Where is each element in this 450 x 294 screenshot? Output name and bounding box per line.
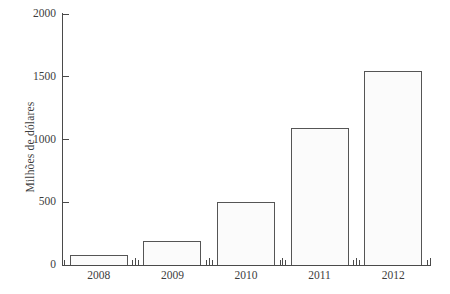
x-tick-mark-minor — [359, 260, 360, 266]
x-tick-mark-minor — [285, 260, 286, 266]
y-tick-label: 500 — [12, 197, 56, 209]
bar — [291, 128, 349, 265]
y-tick-label: 0 — [12, 259, 56, 271]
x-tick-mark — [282, 258, 283, 266]
x-tick-mark-minor — [427, 260, 428, 266]
x-tick-label: 2012 — [358, 270, 428, 282]
x-axis-line — [62, 265, 430, 266]
x-tick-mark — [209, 258, 210, 266]
y-tick-mark — [63, 14, 69, 15]
x-axis-end-tick — [430, 258, 431, 266]
bar — [364, 71, 422, 265]
y-tick-label: 2000 — [12, 8, 56, 20]
y-tick-mark — [63, 76, 69, 77]
x-tick-label: 2010 — [211, 270, 281, 282]
x-tick-mark-minor — [212, 260, 213, 266]
x-tick-mark — [356, 258, 357, 266]
y-tick-mark — [63, 202, 69, 203]
x-tick-mark-minor — [280, 260, 281, 266]
bar-chart-figure: Milhões de dólares 0500100015002000 2008… — [0, 0, 450, 294]
x-tick-label: 2009 — [137, 270, 207, 282]
x-tick-mark-minor — [353, 260, 354, 266]
x-tick-mark-minor — [138, 260, 139, 266]
y-tick-label: 1500 — [12, 71, 56, 83]
y-axis-title: Milhões de dólares — [20, 0, 40, 294]
y-tick-mark — [63, 139, 69, 140]
bar — [143, 241, 201, 265]
y-tick-label: 1000 — [12, 134, 56, 146]
x-tick-label: 2011 — [285, 270, 355, 282]
x-tick-mark-minor — [64, 260, 65, 266]
x-tick-label: 2008 — [64, 270, 134, 282]
x-tick-mark-minor — [132, 260, 133, 266]
bar — [70, 255, 128, 265]
x-tick-mark — [135, 258, 136, 266]
x-tick-mark-minor — [206, 260, 207, 266]
bar — [217, 202, 275, 265]
